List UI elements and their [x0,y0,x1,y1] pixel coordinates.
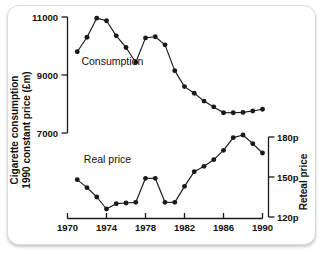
series-segment [136,178,146,202]
data-point-marker [75,49,80,54]
data-point-marker [172,68,177,73]
data-point-marker [260,151,265,156]
data-point-marker [94,16,99,21]
left-axis-title-line1: Cigarette consumption [9,76,20,185]
data-point-marker [202,99,207,104]
series-segment [175,71,185,87]
data-point-marker [104,207,109,212]
data-point-marker [172,200,177,205]
data-point-marker [133,200,138,205]
series-segment [185,172,195,187]
left-axis-title-line2: 1990 constant price (£m) [21,71,32,188]
data-point-marker [192,91,197,96]
data-point-marker [241,110,246,115]
data-point-marker [124,45,129,50]
x-axis-label-1982: 1982 [174,222,195,233]
series-segment [87,18,97,37]
data-point-marker [192,169,197,174]
data-point-marker [104,18,109,23]
left-axis-label-7000: 7000 [37,128,58,139]
data-point-marker [94,195,99,200]
data-point-marker [163,200,168,205]
data-point-marker [260,107,265,112]
right-axis-label-180p: 180p [277,132,299,143]
data-point-marker [85,35,90,40]
x-axis-label-1990: 1990 [252,222,273,233]
series-label-real-price: Real price [84,153,131,165]
series-label-consumption: Consumption [81,55,143,67]
x-axis-label-1970: 1970 [57,222,78,233]
bottom-axis-group: 1970 1974 1978 1982 1986 1990 [57,213,273,233]
right-axis-label-120p: 120p [277,212,299,223]
data-point-marker [182,184,187,189]
series-segment [165,45,175,71]
data-point-marker [221,148,226,153]
data-point-marker [143,35,148,40]
data-point-marker [114,33,119,38]
data-point-marker [221,110,226,115]
right-axis-label-150p: 150p [277,172,299,183]
left-axis-label-11000: 11000 [32,12,58,23]
right-axis-group: 180p 150p 120p Reteal price [269,132,310,223]
left-axis-label-9000: 9000 [37,70,58,81]
data-point-marker [211,157,216,162]
data-point-marker [85,185,90,190]
series-segment [77,37,87,52]
data-point-marker [231,135,236,140]
data-point-marker [143,176,148,181]
data-point-marker [211,104,216,109]
data-point-marker [114,201,119,206]
data-point-marker [250,141,255,146]
x-axis-label-1986: 1986 [213,222,234,233]
right-axis-title: Reteal price [298,153,309,210]
data-point-marker [202,164,207,169]
data-point-marker [153,34,158,39]
data-point-marker [241,133,246,138]
data-point-marker [250,109,255,114]
x-axis-label-1974: 1974 [96,222,118,233]
chart-plot-area: 11000 9000 7000 Cigarette consumption 19… [0,0,323,257]
data-point-marker [231,110,236,115]
data-point-marker [124,201,129,206]
data-point-marker [163,42,168,47]
data-point-marker [75,177,80,182]
left-axis-title-group: Cigarette consumption 1990 constant pric… [0,0,32,189]
series-segment [107,21,117,36]
data-point-marker [182,84,187,89]
x-axis-label-1978: 1978 [135,222,156,233]
left-axis-group: 11000 9000 7000 [32,12,67,139]
data-point-marker [153,176,158,181]
chart-figure: 11000 9000 7000 Cigarette consumption 19… [0,0,323,257]
series-segment [155,178,165,202]
series-segment [175,186,185,202]
series-real-price [75,133,265,212]
